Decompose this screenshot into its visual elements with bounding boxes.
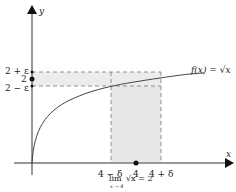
caption-sub: x → 4 — [110, 183, 123, 189]
x-axis-arrow-icon — [225, 158, 234, 168]
x-tick-4-plus-delta: 4 + δ — [149, 169, 173, 179]
function-label: f(x) = √x — [191, 65, 231, 75]
epsilon-band — [32, 72, 161, 86]
y-axis-arrow-icon — [27, 5, 37, 14]
y-axis-label: y — [39, 6, 44, 16]
y-tick-2-minus-eps: 2 − ε — [5, 83, 29, 93]
caption-expr: √x = 2 — [126, 174, 153, 184]
limit-diagram — [0, 0, 236, 192]
x-point-4 — [134, 161, 139, 166]
x-axis-label: x — [226, 149, 231, 159]
y-point-2 — [30, 77, 35, 82]
